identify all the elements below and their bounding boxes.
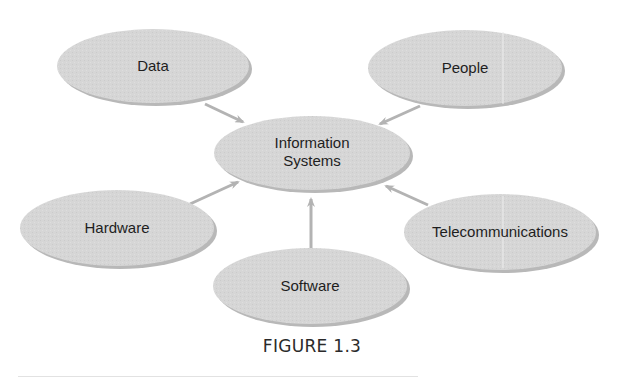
center-label-line2: Systems [283, 152, 341, 169]
node-label-people: People [442, 59, 489, 76]
information-systems-diagram: Data People Information Systems Hardware… [0, 0, 624, 382]
node-data: Data [57, 29, 252, 106]
node-people: People [368, 30, 565, 109]
node-label-data: Data [137, 57, 169, 74]
center-label-line1: Information [274, 134, 349, 151]
figure-caption: FIGURE 1.3 [0, 336, 624, 356]
arrow-people-to-center [380, 106, 420, 124]
node-software: Software [213, 248, 410, 327]
arrow-hardware-to-center [190, 182, 238, 204]
node-telecommunications: Telecommunications [404, 194, 599, 273]
node-information-systems: Information Systems [214, 116, 413, 193]
node-label-software: Software [280, 277, 339, 294]
arrow-data-to-center [205, 104, 243, 122]
arrow-telecom-to-center [386, 186, 428, 205]
node-hardware: Hardware [20, 190, 217, 269]
bottom-rule [18, 376, 418, 377]
node-label-hardware: Hardware [84, 219, 149, 236]
node-label-telecommunications: Telecommunications [432, 223, 568, 240]
